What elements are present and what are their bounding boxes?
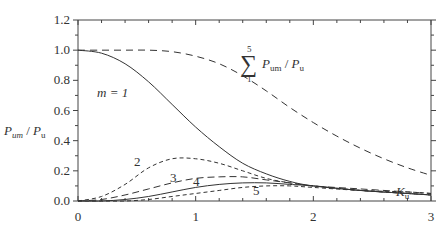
svg-text:Pum / Pu: Pum / Pu [261,56,305,73]
y-tick-label: 1.0 [54,42,70,57]
curve-label-m1: m = 1 [97,85,128,100]
y-tick-label: 0.8 [54,72,70,87]
x-tick-label: 2 [310,209,317,224]
x-tick-label: 0 [75,209,82,224]
y-tick-label: 0.4 [54,133,71,148]
curve-label-2: 2 [134,154,141,169]
sum-label: ∑ 5 1 Pum / Pu [240,44,305,84]
svg-text:5: 5 [247,44,252,54]
curve-label-5: 5 [253,183,260,198]
y-tick-label: 0.0 [54,193,70,208]
chart: 0.00.20.40.60.81.01.20123 Pum / Pu Ku m … [0,0,447,232]
y-axis-label: Pum / Pu [3,123,46,140]
curve-label-3: 3 [170,170,177,185]
x-axis-label: Ku [395,184,410,201]
svg-text:1: 1 [247,74,252,84]
y-tick-label: 0.2 [54,163,70,178]
curve-label-4: 4 [193,174,200,189]
x-tick-label: 1 [192,209,199,224]
y-tick-label: 0.6 [54,103,71,118]
x-tick-label: 3 [428,209,435,224]
y-tick-label: 1.2 [54,12,70,27]
